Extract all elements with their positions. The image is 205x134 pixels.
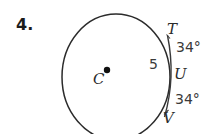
label-segment-length: 5 <box>149 57 158 71</box>
label-point-t: T <box>167 22 177 37</box>
label-angle-bottom: 34° <box>175 92 200 106</box>
label-angle-top: 34° <box>176 40 201 54</box>
label-point-c: C <box>93 72 104 87</box>
label-point-v: V <box>163 111 174 126</box>
geometry-figure-container: 4. C T U V 34° 34° 5 <box>0 0 205 134</box>
label-point-u: U <box>174 67 187 82</box>
center-point-dot <box>104 67 110 73</box>
circle-outline <box>62 14 170 134</box>
